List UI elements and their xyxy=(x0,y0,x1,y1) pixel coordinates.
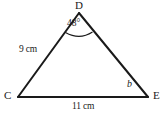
side-length-label-cd: 9 cm xyxy=(19,45,37,55)
side-de-line xyxy=(79,13,148,97)
vertex-label-d: D xyxy=(75,0,83,11)
angle-variable-label-e: b xyxy=(127,79,132,89)
triangle-figure xyxy=(0,0,162,116)
angle-measure-label-d: 48° xyxy=(67,19,80,29)
diagram-canvas: D C E 9 cm 11 cm 48° b xyxy=(0,0,162,116)
vertex-label-e: E xyxy=(153,90,160,101)
vertex-label-c: C xyxy=(4,90,11,101)
side-length-label-ce: 11 cm xyxy=(72,102,94,112)
angle-arc-d xyxy=(66,32,93,36)
